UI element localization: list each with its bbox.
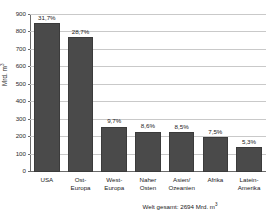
bar-label-ost-europa: 28,7% xyxy=(68,29,94,35)
y-tick-900: 900 xyxy=(16,11,26,17)
y-axis-title: Mrd. m3 xyxy=(2,64,8,86)
y-tick-800: 800 xyxy=(16,28,26,34)
y-tick-600: 600 xyxy=(16,63,26,69)
chart-footnote: Welt gesamt: 2694 Mrd. m3 xyxy=(0,204,264,210)
bar-ost-europa[interactable] xyxy=(68,37,94,172)
bar-latein-amerika[interactable] xyxy=(236,147,262,172)
bar-label-naher-osten: 8,6% xyxy=(135,123,161,129)
category-label-latein-amerika: Latein- Amerika xyxy=(229,176,269,191)
chart-footnote-exponent: 3 xyxy=(215,202,217,207)
y-tick-700: 700 xyxy=(16,46,26,52)
y-tick-500: 500 xyxy=(16,81,26,87)
bar-label-afrika: 7,5% xyxy=(203,129,229,135)
bar-asien-ozeanien[interactable] xyxy=(169,132,195,172)
bar-chart: Mrd. m3 900 800 700 600 500 xyxy=(0,0,270,221)
bar-label-asien-ozeanien: 8,5% xyxy=(169,124,195,130)
bar-label-usa: 31,7% xyxy=(34,15,60,21)
y-axis-title-text: Mrd. m xyxy=(1,66,8,86)
bar-group-afrika: 7,5% Afrika xyxy=(199,14,233,172)
y-tick-400: 400 xyxy=(16,98,26,104)
bar-label-west-europa: 9,7% xyxy=(101,118,127,124)
bar-group-ost-europa: 28,7% Ost- Europa xyxy=(64,14,98,172)
bar-naher-osten[interactable] xyxy=(135,132,161,173)
plot-area: 900 800 700 600 500 400 300 200 100 0 31… xyxy=(30,14,266,172)
chart-footnote-text: Welt gesamt: 2694 Mrd. m xyxy=(143,203,215,210)
y-tick-200: 200 xyxy=(16,133,26,139)
bar-group-west-europa: 9,7% West- Europa xyxy=(97,14,131,172)
bar-group-usa: 31,7% USA xyxy=(30,14,64,172)
bar-usa[interactable] xyxy=(34,23,60,172)
y-axis-title-exponent: 3 xyxy=(0,64,5,67)
y-tick-300: 300 xyxy=(16,116,26,122)
bar-group-latein-amerika: 5,3% Latein- Amerika xyxy=(232,14,266,172)
bar-series: 31,7% USA 28,7% Ost- Europa 9,7% West- E… xyxy=(30,14,266,172)
bar-group-naher-osten: 8,6% Naher Osten xyxy=(131,14,165,172)
bar-label-latein-amerika: 5,3% xyxy=(236,139,262,145)
bar-group-asien-ozeanien: 8,5% Asien/ Ozeanien xyxy=(165,14,199,172)
y-tick-0: 0 xyxy=(23,168,26,174)
bar-afrika[interactable] xyxy=(203,137,229,172)
y-tick-100: 100 xyxy=(16,150,26,156)
bar-west-europa[interactable] xyxy=(101,127,127,173)
